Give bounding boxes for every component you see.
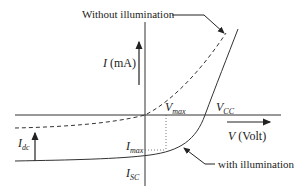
with-illumination-leader-arrow-icon bbox=[184, 148, 215, 164]
with-illumination-label: with illumination bbox=[218, 158, 295, 170]
idc-label: Idc bbox=[17, 136, 30, 152]
imax-label: Imax bbox=[125, 139, 144, 155]
y-axis-label: I (mA) bbox=[102, 56, 136, 70]
curve-without-illumination bbox=[15, 33, 226, 128]
vmax-label: Vmax bbox=[165, 100, 186, 116]
vcc-label: VCC bbox=[216, 100, 235, 116]
x-axis-label: V (Volt) bbox=[228, 129, 266, 143]
without-illumination-label: Without illumination bbox=[82, 8, 175, 20]
iv-characteristic-diagram: I (mA) V (Volt) Idc Vmax VCC Imax ISC Wi… bbox=[0, 0, 305, 188]
isc-label: ISC bbox=[125, 166, 140, 182]
without-illumination-leader-arrow-icon bbox=[172, 15, 224, 33]
